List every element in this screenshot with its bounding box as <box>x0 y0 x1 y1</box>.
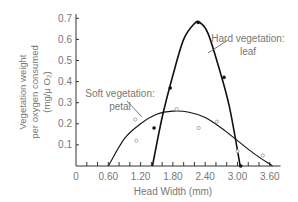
x-axis-label: Head Width (mm) <box>134 186 212 197</box>
y-tick-label: 0.5 <box>58 55 72 66</box>
data-point <box>236 150 239 153</box>
data-point <box>134 118 137 121</box>
data-point <box>168 86 172 90</box>
data-point <box>135 139 138 142</box>
data-point <box>215 120 218 123</box>
y-tick-label: 0.1 <box>58 139 72 150</box>
data-point <box>261 154 264 157</box>
y-tick-label: 0.6 <box>58 34 72 45</box>
y-axis-label-line: per oxygen consumed <box>29 45 40 138</box>
hard-vegetation-label: Hard vegetation: <box>211 33 284 44</box>
data-point <box>152 126 156 130</box>
data-point <box>175 107 178 110</box>
series-line <box>108 111 272 166</box>
y-tick-label: 0.3 <box>58 97 72 108</box>
soft-vegetation-label: petal <box>109 101 131 112</box>
x-tick-label: 0.60 <box>99 171 119 182</box>
y-tick-label: 0.2 <box>58 118 72 129</box>
x-tick-label: 0 <box>73 171 79 182</box>
soft-vegetation-label: Soft vegetation: <box>85 88 155 99</box>
y-axis-label-line: (mg/μ O₂) <box>41 71 52 112</box>
chart: Vegetation weightper oxygen consumed(mg/… <box>0 0 298 202</box>
x-tick-label: 3.60 <box>260 171 280 182</box>
y-axis-label: Vegetation weightper oxygen consumed(mg/… <box>17 45 52 138</box>
annotations: Hard vegetation:leafSoft vegetation:peta… <box>85 33 284 117</box>
data-point <box>197 126 200 129</box>
hard-vegetation-label: leaf <box>240 46 256 57</box>
data-point <box>222 76 226 80</box>
data-point <box>239 164 243 168</box>
x-tick-label: 1.20 <box>131 171 151 182</box>
x-tick-label: 3.00 <box>228 171 248 182</box>
x-tick-label: 1.80 <box>163 171 183 182</box>
y-tick-label: 0.7 <box>58 13 72 24</box>
x-tick-label: 2.40 <box>195 171 215 182</box>
y-axis-label-line: Vegetation weight <box>17 54 28 129</box>
y-tick-label: 0.4 <box>58 76 72 87</box>
data-point <box>196 21 200 25</box>
